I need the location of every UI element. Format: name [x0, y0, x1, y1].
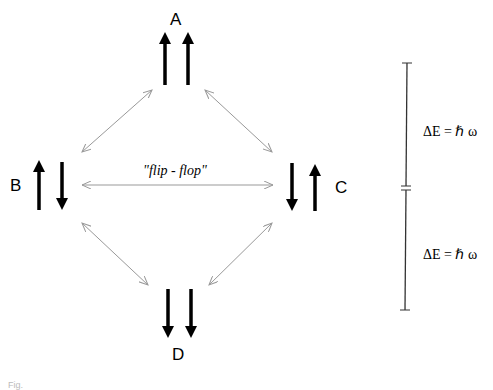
flip-flop-label: "flip - flop": [143, 163, 207, 179]
transition-a-c: [205, 90, 272, 152]
state-b-spins: [33, 160, 68, 210]
energy-scale: [400, 63, 412, 310]
state-d-label: D: [172, 345, 184, 365]
energy-scale-upper-segment: [406, 63, 407, 186]
state-a-spins: [159, 32, 194, 85]
state-b-label: B: [10, 176, 21, 196]
spin-up-arrowhead: [182, 32, 194, 44]
spin-up-arrowhead: [309, 164, 321, 176]
state-d-spins: [162, 289, 197, 338]
transition-c-d: [209, 223, 272, 285]
transition-b-d: [82, 223, 148, 285]
spin-state-diagram: [0, 0, 493, 390]
spin-down-arrowhead: [185, 326, 197, 338]
spin-up-arrowhead: [159, 32, 171, 44]
energy-gap-upper-label: ΔE = ℏ ω: [423, 123, 477, 140]
spin-down-arrowhead: [286, 199, 298, 211]
figure-caption: Fig.: [8, 380, 23, 390]
state-c-label: C: [335, 178, 347, 198]
state-a-label: A: [170, 10, 181, 30]
energy-gap-lower-label: ΔE = ℏ ω: [423, 246, 477, 263]
transition-a-b: [82, 90, 152, 152]
state-c-spins: [286, 163, 321, 211]
spin-up-arrowhead: [33, 160, 45, 172]
spin-down-arrowhead: [56, 198, 68, 210]
spin-down-arrowhead: [162, 326, 174, 338]
energy-scale-lower-segment: [405, 190, 406, 310]
